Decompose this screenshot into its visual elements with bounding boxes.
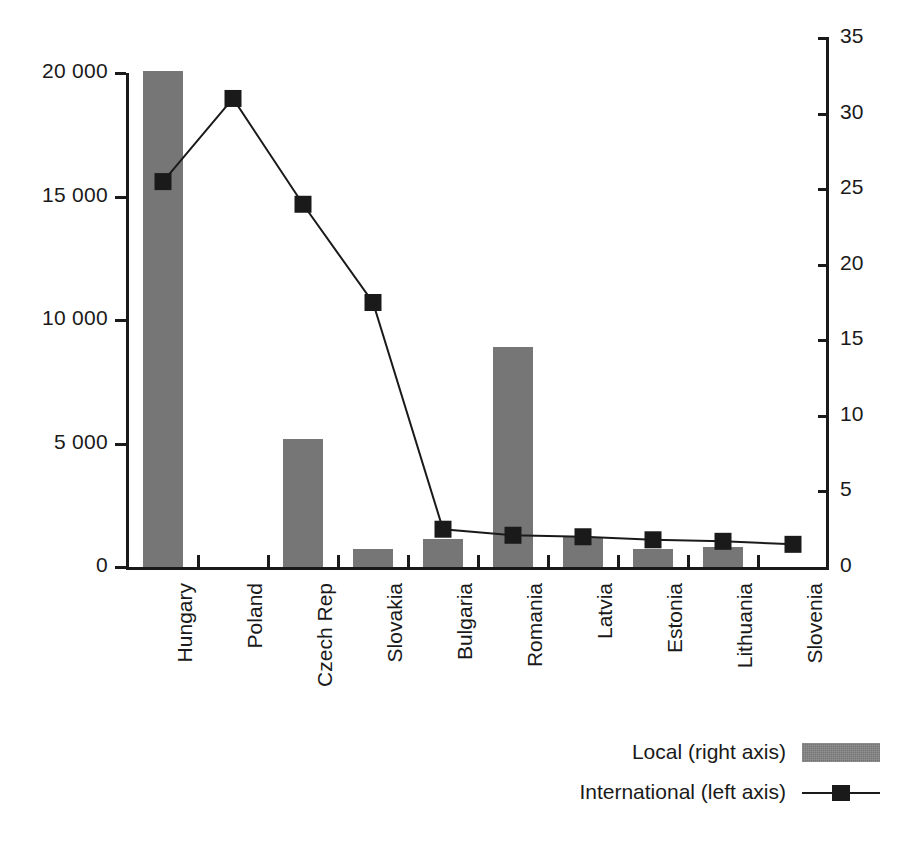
marker-poland bbox=[225, 90, 242, 107]
left-axis-tick-label: 20 000 bbox=[42, 59, 108, 83]
line-series-international bbox=[128, 38, 828, 567]
bar-lithuania bbox=[703, 547, 743, 568]
x-axis-label-romania: Romania bbox=[523, 583, 547, 743]
legend-line-marker-swatch-icon bbox=[802, 783, 880, 802]
left-axis-tick-label: 5 000 bbox=[54, 430, 108, 454]
chart-legend: Local (right axis) International (left a… bbox=[0, 732, 880, 812]
left-axis-tick bbox=[115, 196, 126, 199]
right-axis-tick-label: 10 bbox=[840, 402, 863, 426]
right-axis-tick-label: 35 bbox=[840, 24, 863, 48]
left-axis-tick-label: 0 bbox=[96, 553, 108, 577]
left-axis-tick bbox=[115, 566, 126, 569]
left-axis-tick bbox=[115, 319, 126, 322]
chart-figure: 05 00010 00015 00020 000 05101520253035 … bbox=[0, 0, 910, 845]
x-axis-label-slovakia: Slovakia bbox=[383, 583, 407, 743]
right-axis-tick-label: 20 bbox=[840, 251, 863, 275]
legend-label-local: Local (right axis) bbox=[632, 740, 786, 764]
marker-bulgaria bbox=[435, 521, 452, 538]
bar-slovakia bbox=[353, 549, 393, 567]
legend-item-international: International (left axis) bbox=[0, 772, 880, 812]
bar-czech-rep bbox=[283, 439, 323, 567]
right-axis-tick-label: 0 bbox=[840, 553, 852, 577]
right-axis-tick-label: 30 bbox=[840, 100, 863, 124]
left-axis-tick bbox=[115, 443, 126, 446]
legend-item-local: Local (right axis) bbox=[0, 732, 880, 772]
marker-czech-rep bbox=[295, 196, 312, 213]
x-axis-label-slovenia: Slovenia bbox=[803, 583, 827, 743]
plot-area bbox=[128, 38, 828, 567]
x-axis-label-hungary: Hungary bbox=[173, 583, 197, 743]
x-axis-label-bulgaria: Bulgaria bbox=[453, 583, 477, 743]
bar-romania bbox=[493, 347, 533, 567]
bar-estonia bbox=[633, 549, 673, 567]
marker-slovakia bbox=[365, 294, 382, 311]
left-axis-tick-label: 15 000 bbox=[42, 183, 108, 207]
bar-bulgaria bbox=[423, 539, 463, 567]
left-axis-tick bbox=[115, 72, 126, 75]
marker-estonia bbox=[645, 531, 662, 548]
marker-slovenia bbox=[785, 536, 802, 553]
legend-label-international: International (left axis) bbox=[579, 780, 786, 804]
x-axis-label-poland: Poland bbox=[243, 583, 267, 743]
x-axis-label-lithuania: Lithuania bbox=[733, 583, 757, 743]
right-axis-tick-label: 5 bbox=[840, 477, 852, 501]
legend-bar-swatch-icon bbox=[802, 743, 880, 762]
right-axis-tick-label: 25 bbox=[840, 175, 863, 199]
left-axis-tick-label: 10 000 bbox=[42, 306, 108, 330]
bar-latvia bbox=[563, 537, 603, 567]
bar-hungary bbox=[143, 71, 183, 567]
x-axis-label-latvia: Latvia bbox=[593, 583, 617, 743]
x-axis-label-czech-rep: Czech Rep bbox=[313, 583, 337, 743]
right-axis-tick-label: 15 bbox=[840, 326, 863, 350]
line-path-international bbox=[163, 98, 793, 544]
x-axis-label-estonia: Estonia bbox=[663, 583, 687, 743]
